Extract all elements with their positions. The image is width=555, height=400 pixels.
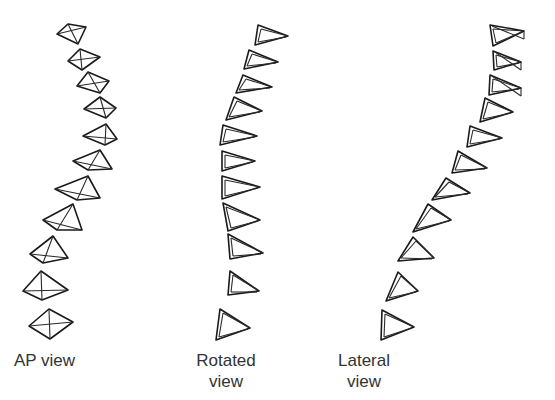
rotated-vertebra-6 (222, 151, 255, 171)
lateral-vertebra-9 (398, 237, 434, 261)
spine-projection-diagram: AP view Rotated view Lateral view (0, 0, 555, 400)
vertebrae-drawing (0, 0, 555, 400)
lateral-vertebra-2 (493, 51, 521, 70)
ap-vertebra-11 (29, 309, 73, 339)
lateral-vertebra-6 (452, 151, 487, 173)
ap-vertebra-4 (84, 97, 116, 118)
ap-view-label: AP view (14, 350, 104, 371)
rotated-view-label-line1: Rotated (186, 350, 266, 371)
lateral-vertebra-3 (489, 75, 521, 96)
rotated-vertebra-5 (220, 125, 257, 145)
rotated-vertebra-11 (216, 309, 250, 340)
lateral-vertebra-5 (467, 126, 502, 147)
lateral-view-label-line2: view (329, 371, 399, 392)
ap-vertebra-9 (30, 236, 68, 263)
ap-vertebra-1 (57, 24, 86, 44)
lateral-vertebra-10 (386, 272, 418, 301)
lateral-view-label-line1: Lateral (329, 350, 399, 371)
ap-view-column (23, 24, 117, 339)
ap-vertebra-10 (23, 271, 68, 300)
ap-vertebra-3 (77, 72, 109, 93)
lateral-vertebra-1 (490, 25, 524, 46)
lateral-vertebra-4 (480, 98, 513, 122)
rotated-vertebra-9 (228, 234, 263, 259)
rotated-view-column (216, 25, 288, 340)
rotated-view-label: Rotated view (186, 350, 266, 392)
lateral-view-label: Lateral view (329, 350, 399, 392)
lateral-vertebra-8 (413, 204, 451, 232)
ap-vertebra-5 (83, 124, 117, 145)
rotated-vertebra-10 (228, 271, 259, 295)
rotated-vertebra-1 (255, 25, 288, 45)
lateral-vertebra-7 (432, 178, 470, 200)
rotated-vertebra-8 (223, 203, 260, 231)
ap-vertebra-6 (73, 150, 112, 170)
ap-vertebra-7 (55, 176, 100, 200)
ap-vertebra-2 (68, 49, 100, 70)
rotated-vertebra-2 (244, 50, 278, 69)
ap-view-label-text: AP view (14, 351, 75, 370)
ap-vertebra-8 (43, 204, 82, 230)
lateral-vertebra-11 (381, 310, 414, 340)
rotated-vertebra-4 (226, 97, 262, 120)
rotated-vertebra-7 (222, 176, 260, 199)
rotated-vertebra-3 (236, 75, 272, 93)
rotated-view-label-line2: view (186, 371, 266, 392)
lateral-view-column (381, 25, 524, 340)
